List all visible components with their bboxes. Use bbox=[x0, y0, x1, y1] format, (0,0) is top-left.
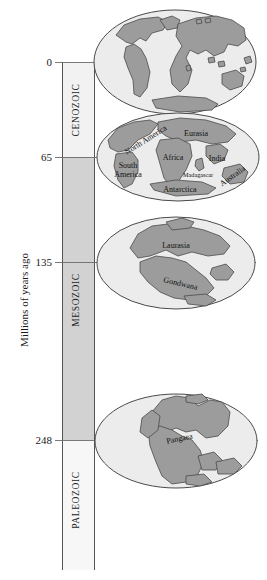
land-island-e-present bbox=[205, 18, 211, 23]
label-south-america-line2: America bbox=[114, 170, 142, 179]
label-laurasia: Laurasia bbox=[162, 241, 190, 250]
label-madagascar: Madagascar bbox=[183, 171, 213, 178]
globe-248mya: Pangaea bbox=[95, 394, 257, 488]
tick-label-135: 135 bbox=[36, 256, 53, 268]
land-island-g-present bbox=[186, 65, 191, 71]
tick-label-248: 248 bbox=[36, 434, 53, 446]
land-island-f-present bbox=[240, 67, 246, 72]
globe-65mya: North America Eurasia Africa South Ameri… bbox=[97, 113, 259, 201]
label-antarctica: Antarctica bbox=[163, 185, 197, 194]
era-label-mesozoic: MESOZOIC bbox=[71, 273, 81, 326]
land-island-d-present bbox=[196, 19, 202, 24]
land-island-a-present bbox=[208, 57, 215, 63]
land-island-c-present bbox=[244, 56, 252, 64]
land-island-b-present bbox=[218, 61, 225, 67]
label-africa: Africa bbox=[163, 153, 184, 162]
era-label-paleozoic: PALEOZOIC bbox=[71, 471, 81, 528]
globe-135mya: Laurasia Gondwana bbox=[97, 217, 255, 309]
era-label-cenozoic: CENOZOIC bbox=[71, 84, 81, 137]
continental-drift-figure: 0 65 135 248 Millions of years ago CENOZ… bbox=[0, 0, 267, 580]
figure-canvas: 0 65 135 248 Millions of years ago CENOZ… bbox=[0, 0, 267, 580]
globe-present-day bbox=[94, 10, 256, 114]
label-south-america-line1: South bbox=[119, 161, 138, 170]
tick-label-65: 65 bbox=[41, 151, 53, 163]
label-eurasia: Eurasia bbox=[184, 129, 208, 138]
y-axis-title: Millions of years ago bbox=[18, 253, 30, 347]
label-india: India bbox=[209, 154, 226, 163]
tick-label-0: 0 bbox=[47, 56, 53, 68]
